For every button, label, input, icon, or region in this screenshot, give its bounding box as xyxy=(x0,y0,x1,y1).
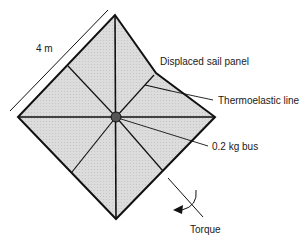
displaced-panel-label: Displaced sail panel xyxy=(160,56,249,67)
torque-label: Torque xyxy=(190,224,221,235)
thermoelastic-line-label: Thermoelastic line xyxy=(218,95,300,106)
torque-indicator xyxy=(168,178,203,217)
bus-icon xyxy=(111,112,121,122)
torque-arrow-icon xyxy=(173,205,183,214)
bus-label: 0.2 kg bus xyxy=(212,141,258,152)
dimension-label: 4 m xyxy=(36,43,53,54)
solar-sail-diagram: 4 m Displaced sail panel Thermoelastic l… xyxy=(0,0,300,244)
